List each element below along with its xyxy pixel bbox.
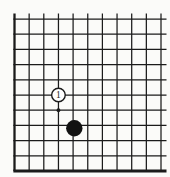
go-board-diagram: 1 — [0, 0, 170, 177]
black-stone — [66, 120, 82, 136]
star-point-marker — [57, 108, 61, 112]
go-board-svg: 1 — [0, 0, 170, 177]
stone-label: 1 — [56, 90, 61, 100]
